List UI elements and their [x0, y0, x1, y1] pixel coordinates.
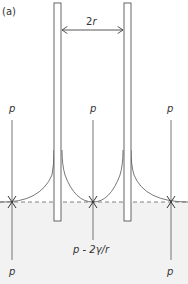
meniscus-inner — [62, 150, 123, 202]
width-label: 2r — [86, 17, 97, 27]
pressure-label-inside: p - 2γ/r — [73, 245, 109, 255]
tube-wall-right — [124, 3, 131, 221]
pressure-label-bottom-right: p — [167, 267, 173, 277]
panel-label: (a) — [2, 7, 16, 17]
pressure-label-top-right: p — [167, 104, 173, 114]
liquid-region — [0, 202, 188, 284]
pressure-label-bottom-left: p — [9, 267, 15, 277]
capillary-svg — [0, 0, 188, 284]
capillary-diagram: (a) 2r p p p p - 2γ/r p p — [0, 0, 188, 284]
meniscus-left-outer — [0, 150, 54, 202]
pressure-label-top-mid: p — [90, 104, 96, 114]
width-label-var: r — [92, 16, 96, 27]
tube-wall-left — [54, 3, 61, 221]
pressure-label-top-left: p — [9, 104, 15, 114]
meniscus-right-outer — [131, 150, 188, 202]
